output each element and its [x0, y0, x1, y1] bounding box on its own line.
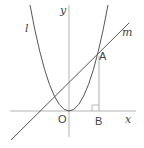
line-m-label: m: [122, 27, 132, 38]
right-angle-mark: [92, 105, 99, 111]
point-A-label: A: [99, 51, 106, 62]
y-axis-label: y: [60, 5, 66, 16]
x-axis-label: x: [125, 114, 131, 125]
graph-diagram: y l m A O B x: [0, 0, 144, 148]
line-m: [11, 23, 129, 140]
curve-l-label: l: [25, 23, 29, 34]
graph-canvas: [0, 0, 144, 148]
point-B-label: B: [95, 116, 102, 127]
origin-label: O: [58, 114, 67, 125]
